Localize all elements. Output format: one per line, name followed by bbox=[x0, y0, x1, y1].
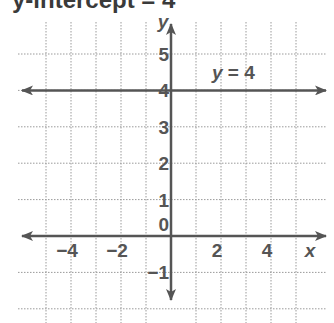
x-tick-label: 4 bbox=[262, 240, 273, 261]
x-axis-label: x bbox=[304, 240, 317, 261]
y-tick-label: 3 bbox=[158, 117, 169, 138]
y-axis-label: y bbox=[157, 11, 170, 32]
x-tick-label: −4 bbox=[56, 240, 78, 261]
y-tick-label: −1 bbox=[147, 262, 169, 283]
y-tick-label: 2 bbox=[158, 153, 169, 174]
y-tick-label: 4 bbox=[158, 80, 169, 101]
coordinate-plane: −4−224−1012345xyy = 4 bbox=[0, 0, 334, 323]
y-tick-label: 1 bbox=[158, 190, 169, 211]
tick-labels: −4−224−1012345xyy = 4 bbox=[56, 11, 317, 283]
y-tick-label: 0 bbox=[158, 214, 169, 235]
x-tick-label: 2 bbox=[212, 240, 223, 261]
y-tick-label: 5 bbox=[158, 44, 169, 65]
x-tick-label: −2 bbox=[106, 240, 128, 261]
line-annotation: y = 4 bbox=[211, 62, 255, 83]
